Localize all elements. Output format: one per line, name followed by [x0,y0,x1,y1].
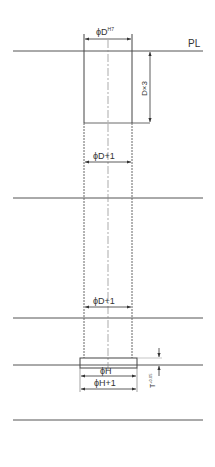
parting-line-label: PL [188,38,201,49]
technical-drawing: PL ϕDH7 D×3 ϕD+1 ϕD+1 ϕH ϕH+1 T+0.05 [0,0,215,467]
dim-depth: D×3 [140,81,149,96]
bore-h7 [84,34,150,123]
dim-head-diameter: ϕH [100,366,112,376]
dim-lower-clearance: ϕD+1 [93,296,115,306]
dim-head-thickness-lines [137,348,162,376]
dim-top-diameter: ϕDH7 [96,26,114,37]
dim-upper-clearance: ϕD+1 [93,151,115,161]
dim-head-clearance: ϕH+1 [94,378,116,388]
dim-head-thickness: T+0.05 [148,373,156,388]
